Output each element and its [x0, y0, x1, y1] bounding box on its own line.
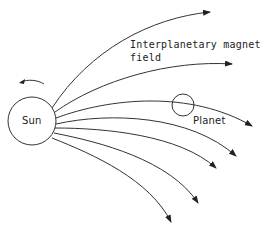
rotation-arrow-icon — [19, 79, 44, 84]
field-label-line1: Interplanetary magnetic — [130, 39, 260, 50]
field-line-2 — [55, 63, 232, 112]
field-line-7 — [52, 138, 171, 222]
field-line-5 — [55, 128, 216, 168]
field-line-6 — [54, 133, 198, 203]
sun-label: Sun — [22, 115, 42, 126]
planet-label: Planet — [193, 115, 226, 126]
planet-circle — [172, 94, 194, 116]
field-label-line2: field — [130, 52, 161, 63]
